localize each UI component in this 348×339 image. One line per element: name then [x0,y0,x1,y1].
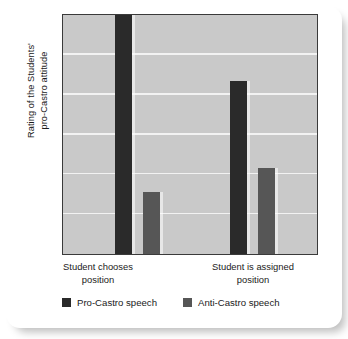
x-axis-label-group-1-line-1: Student chooses [38,261,158,274]
legend-label-anti-castro: Anti-Castro speech [198,297,280,308]
bar-highlight-edge [275,168,278,254]
plot-area [62,14,318,255]
legend-item-pro-castro: Pro-Castro speech [62,297,157,308]
legend-swatch-icon-anti-castro [183,298,192,307]
gridline-2 [63,173,317,174]
bar-group-1-series-1 [115,15,132,254]
bar-fill [258,168,275,254]
x-axis-label-group-1: Student chooses position [38,261,158,286]
x-axis-label-group-2-line-2: position [193,274,313,287]
gridline-3 [63,133,317,134]
legend-swatch-icon-pro-castro [62,298,71,307]
bar-group-1-series-2 [143,192,160,254]
bar-highlight-edge [132,15,135,254]
bar-fill [143,192,160,254]
bar-group-2-series-2 [258,168,275,254]
bar-fill [115,15,132,254]
bar-highlight-edge [160,192,163,254]
bar-highlight-edge [247,81,250,254]
y-axis-title-line-1: Rating of the Students' [25,0,38,196]
legend-item-anti-castro: Anti-Castro speech [183,297,280,308]
gridline-1 [63,213,317,214]
y-axis-title-line-2: pro-Castro attitude [37,0,50,196]
legend-label-pro-castro: Pro-Castro speech [77,297,157,308]
bar-group-2-series-1 [230,81,247,254]
x-axis-label-group-2-line-1: Student is assigned [193,261,313,274]
gridline-5 [63,53,317,54]
gridline-4 [63,93,317,94]
y-axis-title: Rating of the Students' pro-Castro attit… [25,0,50,196]
bar-fill [230,81,247,254]
figure-container: Rating of the Students' pro-Castro attit… [0,0,348,339]
x-axis-label-group-2: Student is assigned position [193,261,313,286]
chart-legend: Pro-Castro speech Anti-Castro speech [62,297,332,308]
plot-area-wrapper [62,14,318,255]
x-axis-label-group-1-line-2: position [38,274,158,287]
